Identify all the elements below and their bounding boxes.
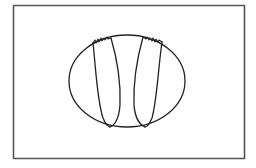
left-lobe <box>93 37 120 127</box>
right-lobe <box>134 37 162 127</box>
right-lobe-outer-curve <box>145 42 162 127</box>
left-lobe-outer-curve <box>93 43 110 127</box>
frame-border <box>14 6 245 159</box>
left-lobe-inner-curve <box>110 38 120 127</box>
right-lobe-inner-curve <box>134 37 145 127</box>
oval-outline <box>69 35 185 127</box>
diagram-canvas <box>0 0 256 168</box>
